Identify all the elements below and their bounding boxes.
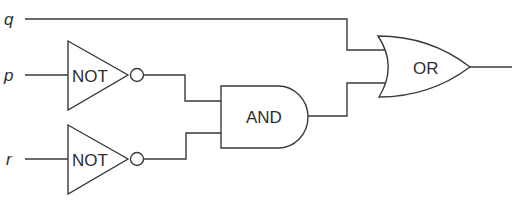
and-gate-label: AND [246, 108, 282, 127]
not-gate-2: NOT [68, 125, 144, 194]
not-gate-1-label: NOT [72, 67, 108, 86]
and-gate: AND [221, 86, 308, 148]
wire-q-to-or [25, 19, 388, 50]
wire-and-to-or [308, 83, 388, 116]
or-gate: OR [378, 36, 470, 97]
wire-not2-to-and [144, 133, 222, 159]
not-gate-1: NOT [68, 41, 144, 110]
input-label-r: r [6, 150, 13, 169]
or-gate-label: OR [413, 59, 439, 78]
wire-not1-to-and [144, 75, 222, 101]
input-label-p: p [3, 66, 13, 85]
input-label-q: q [4, 10, 14, 29]
not-gate-2-label: NOT [72, 151, 108, 170]
logic-circuit-diagram: q p r NOT NOT AND OR [0, 0, 516, 200]
not-gate-1-bubble [131, 69, 144, 82]
not-gate-2-bubble [131, 153, 144, 166]
